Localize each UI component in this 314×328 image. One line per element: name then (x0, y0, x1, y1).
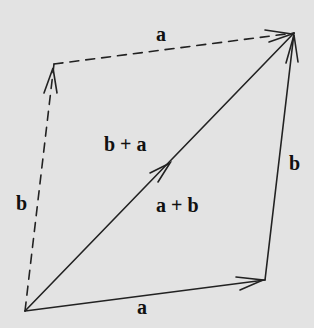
vector-addition-diagram: a b + a b b a + b a (0, 0, 314, 328)
arrowhead-b-left-icon (44, 68, 57, 93)
label-b-left: b (16, 193, 27, 213)
label-sum-lower: a + b (156, 195, 199, 215)
diagram-canvas (0, 0, 314, 328)
label-a-bottom: a (137, 297, 147, 317)
label-a-top: a (156, 24, 166, 44)
vector-sum-diagonal (25, 33, 294, 311)
label-b-right: b (289, 153, 300, 173)
vector-a-top-dashed (54, 33, 294, 64)
vector-b-left-dashed (25, 64, 54, 311)
label-sum-upper: b + a (104, 134, 147, 154)
